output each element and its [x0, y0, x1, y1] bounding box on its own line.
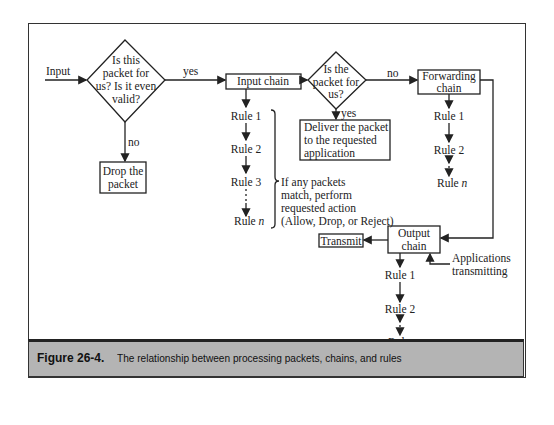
- forwarding-line: chain: [437, 82, 462, 94]
- input-chain-label: Input chain: [237, 75, 289, 88]
- brace-note-line: requested action: [281, 202, 356, 215]
- decision1-line: packet for: [103, 67, 149, 80]
- drop-line: packet: [108, 178, 139, 191]
- deliver-line: to the requested: [304, 134, 377, 147]
- forward-rule-2: Rule 2: [434, 144, 465, 156]
- figure-number: Figure 26-4.: [37, 351, 104, 365]
- caption-bar: Figure 26-4. The relationship between pr…: [28, 339, 524, 377]
- decision1-line: valid?: [112, 93, 140, 105]
- decision1-line: Is this: [112, 54, 140, 66]
- forward-rule-1: Rule 1: [434, 110, 465, 122]
- apps-line: transmitting: [452, 265, 508, 278]
- decision2-line: Is the: [323, 63, 348, 75]
- figure-caption: The relationship between processing pack…: [117, 352, 402, 364]
- output-line: Output: [398, 227, 431, 240]
- output-rule-1: Rule 1: [385, 269, 416, 281]
- deliver-line: Deliver the packet: [304, 121, 389, 134]
- no-label-1: no: [128, 136, 140, 148]
- brace-note-line: If any packets: [281, 176, 346, 189]
- yes-label-2: yes: [341, 107, 357, 120]
- input-rule-3: Rule 3: [231, 176, 262, 188]
- deliver-line: application: [304, 147, 355, 160]
- decision2-line: us?: [328, 88, 343, 100]
- transmit-label: Transmit: [320, 235, 362, 247]
- brace-note-line: (Allow, Drop, or Reject): [281, 215, 394, 228]
- drop-line: Drop the: [103, 165, 144, 178]
- brace-note-line: match, perform: [281, 189, 352, 202]
- decision1-line: us? Is it even: [96, 80, 157, 92]
- apps-line: Applications: [452, 252, 511, 265]
- forward-rule-n: Rule n: [437, 177, 468, 189]
- no-label-2: no: [387, 67, 399, 79]
- yes-label-1: yes: [183, 65, 199, 78]
- input-rule-2: Rule 2: [231, 143, 262, 155]
- apps-to-output-arrow: [430, 254, 450, 264]
- rules-brace: [271, 110, 279, 228]
- output-line: chain: [402, 240, 427, 252]
- input-rule-n: Rule n: [234, 215, 265, 227]
- output-rule-2: Rule 2: [385, 303, 416, 315]
- input-rule-1: Rule 1: [231, 110, 262, 122]
- input-label: Input: [46, 65, 71, 78]
